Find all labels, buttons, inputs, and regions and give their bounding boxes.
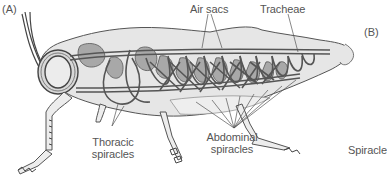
label-thoracic-line1: Thoracic [88,136,138,148]
label-thoracic-spiracles: Thoracic spiracles [88,136,138,160]
insect-tracheal-system-diagram [0,0,387,179]
label-tracheae: Tracheae [260,3,305,15]
label-thoracic-line2: spiracles [88,148,138,160]
label-abdominal-line2: spiracles [200,143,264,155]
label-abdominal-spiracles: Abdominal spiracles [200,131,264,155]
panel-label-a: (A) [2,3,17,15]
label-abdominal-line1: Abdominal [200,131,264,143]
label-air-sacs: Air sacs [190,3,228,15]
label-spiracle: Spiracle [348,144,387,156]
panel-label-b: (B) [364,26,379,38]
